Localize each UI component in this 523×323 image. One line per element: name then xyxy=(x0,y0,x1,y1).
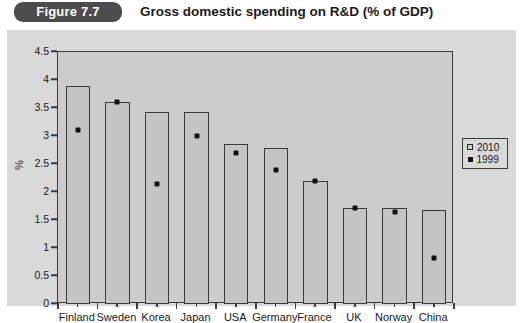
x-axis-tick-mark xyxy=(57,303,59,309)
y-axis-tick-label: 4 xyxy=(15,74,49,84)
y-axis-tick-label: 3 xyxy=(15,130,49,140)
y-axis-tick-label: 2.5 xyxy=(15,158,49,168)
chart-legend: 20101999 xyxy=(462,138,508,169)
y-axis-tick-label: 0.5 xyxy=(15,270,49,280)
square-swatch-icon xyxy=(467,144,473,150)
x-axis-label-norway: Norway xyxy=(375,311,412,323)
legend-label: 1999 xyxy=(477,154,499,165)
bar-usa xyxy=(224,144,249,304)
bar-norway xyxy=(382,208,407,304)
x-axis-tick-mark xyxy=(97,303,99,309)
figure-panel: % 00.511.522.533.544.5 FinlandSwedenKore… xyxy=(7,30,516,306)
figure-number-badge: Figure 7.7 xyxy=(14,2,122,22)
x-axis-tick-mark xyxy=(374,303,376,309)
x-axis-label-germany: Germany xyxy=(252,311,297,323)
x-axis-tick-mark xyxy=(176,303,178,309)
marker-uk xyxy=(353,205,358,210)
figure-header: Figure 7.7 Gross domestic spending on R&… xyxy=(0,0,523,26)
diamond-marker-icon xyxy=(468,157,473,162)
plot-area xyxy=(57,51,453,303)
legend-label: 2010 xyxy=(477,142,499,153)
x-axis-label-china: China xyxy=(419,311,448,323)
x-axis-label-finland: Finland xyxy=(59,311,95,323)
x-axis-tick-mark xyxy=(215,303,217,309)
marker-finland xyxy=(75,128,80,133)
x-axis-tick-mark xyxy=(413,303,415,309)
marker-france xyxy=(313,178,318,183)
marker-korea xyxy=(155,181,160,186)
y-axis-tick-label: 1 xyxy=(15,242,49,252)
y-axis-tick-label: 2 xyxy=(15,186,49,196)
x-axis-label-france: France xyxy=(297,311,331,323)
bar-uk xyxy=(343,208,368,304)
x-axis-tick-mark xyxy=(295,303,297,309)
y-axis-tick-label: 4.5 xyxy=(15,46,49,56)
marker-norway xyxy=(392,209,397,214)
legend-item-1999: 1999 xyxy=(467,153,503,165)
x-axis-label-usa: USA xyxy=(224,311,247,323)
x-axis-tick-mark xyxy=(453,303,455,309)
x-axis-tick-mark xyxy=(334,303,336,309)
marker-usa xyxy=(234,150,239,155)
x-axis-label-korea: Korea xyxy=(141,311,170,323)
y-axis-tick-label: 3.5 xyxy=(15,102,49,112)
x-axis-label-japan: Japan xyxy=(181,311,211,323)
y-axis-tick-label: 0 xyxy=(15,298,49,308)
marker-sweden xyxy=(115,100,120,105)
marker-china xyxy=(432,256,437,261)
bar-finland xyxy=(66,86,91,304)
figure-title: Gross domestic spending on R&D (% of GDP… xyxy=(140,2,433,22)
marker-germany xyxy=(273,167,278,172)
marker-japan xyxy=(194,134,199,139)
x-axis-tick-mark xyxy=(255,303,257,309)
x-axis-label-uk: UK xyxy=(346,311,361,323)
bar-korea xyxy=(145,112,170,304)
x-axis-tick-mark xyxy=(136,303,138,309)
bar-france xyxy=(303,181,328,304)
bar-sweden xyxy=(105,102,130,304)
bar-japan xyxy=(184,112,209,304)
x-axis-label-sweden: Sweden xyxy=(97,311,137,323)
y-axis-tick-label: 1.5 xyxy=(15,214,49,224)
legend-item-2010: 2010 xyxy=(467,141,503,153)
